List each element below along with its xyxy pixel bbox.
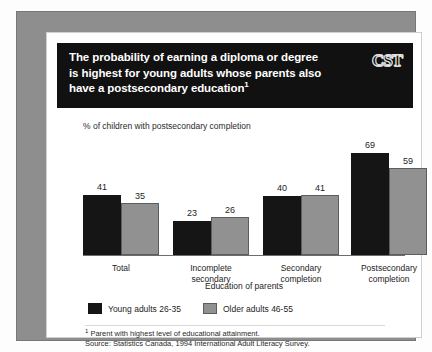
bar-group-bars: 4135: [83, 137, 159, 255]
footnote-line-2: Source: Statistics Canada, 1994 Internat…: [85, 339, 310, 348]
bar-value-label: 59: [390, 156, 426, 166]
bar-value-label: 35: [122, 191, 158, 201]
chart-bar: 69: [351, 153, 389, 255]
chart-subtitle: % of children with postsecondary complet…: [83, 121, 251, 131]
legend-item: Young adults 26-35: [88, 303, 181, 314]
bar-group-bars: 4041: [263, 137, 339, 255]
scanned-page: The probability of earning a diploma or …: [0, 0, 432, 352]
chart-bar: 35: [121, 203, 159, 255]
footnote-divider: [85, 325, 385, 326]
x-axis-title: Education of parents: [83, 281, 405, 291]
bar-value-label: 26: [212, 205, 248, 215]
title-banner: The probability of earning a diploma or …: [57, 43, 413, 108]
banner-title-line-3: have a postsecondary education: [69, 82, 244, 94]
legend-swatch: [203, 303, 217, 314]
bar-value-label: 41: [83, 182, 121, 192]
footnote-block: 1 Parent with highest level of education…: [85, 329, 310, 349]
bar-value-label: 23: [173, 208, 211, 218]
chart-bar: 40: [263, 196, 301, 255]
banner-title-line-1: The probability of earning a diploma or …: [69, 51, 318, 63]
chart-bar: 26: [211, 217, 249, 255]
banner-title: The probability of earning a diploma or …: [69, 50, 339, 97]
bar-group-bars: 6959: [351, 137, 427, 255]
cst-logo: CST: [372, 51, 402, 71]
footnote-line-1: Parent with highest level of educational…: [88, 329, 259, 338]
bar-value-label: 40: [263, 183, 301, 193]
banner-title-footnote-marker: 1: [244, 80, 248, 89]
chart-bar: 41: [301, 195, 339, 255]
x-axis-line: [83, 255, 405, 256]
chart-plot-area: 4135Total2326Incompletesecondary4041Seco…: [83, 137, 403, 255]
legend-label: Young adults 26-35: [108, 304, 181, 314]
figure-card: The probability of earning a diploma or …: [46, 32, 422, 338]
legend-swatch: [88, 303, 102, 314]
bar-group-bars: 2326: [173, 137, 249, 255]
bar-value-label: 69: [351, 140, 389, 150]
legend-item: Older adults 46-55: [203, 303, 293, 314]
chart-legend: Young adults 26-35Older adults 46-55: [88, 303, 315, 314]
bar-group-label: Total: [76, 263, 166, 274]
chart-bar: 59: [389, 168, 427, 255]
chart-bar: 41: [83, 195, 121, 255]
page-frame: The probability of earning a diploma or …: [16, 11, 416, 341]
banner-title-line-2: is highest for young adults whose parent…: [69, 67, 321, 79]
bar-value-label: 41: [302, 183, 338, 193]
chart-bar: 23: [173, 221, 211, 255]
legend-label: Older adults 46-55: [223, 304, 293, 314]
